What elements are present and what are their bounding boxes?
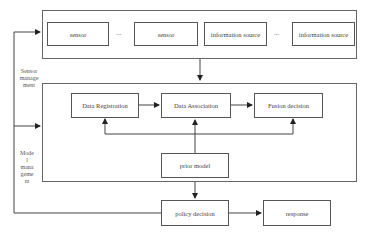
ellipsis: ... xyxy=(116,29,121,37)
label-line: ment xyxy=(14,82,44,89)
source-box-sensor-1: sensor xyxy=(47,22,109,46)
policy-decision-box: policy decision xyxy=(161,200,229,226)
source-label: sensor xyxy=(70,31,87,38)
source-box-info-2: information source xyxy=(292,22,355,46)
label-line: manage xyxy=(14,75,44,82)
label-line: l xyxy=(12,157,42,164)
prior-model-box: prior model xyxy=(161,153,229,178)
prior-model-label: prior model xyxy=(180,162,211,169)
label-line: mana xyxy=(12,164,42,171)
response-box: response xyxy=(263,200,331,226)
source-label: information source xyxy=(299,31,348,38)
policy-decision-label: policy decision xyxy=(175,210,215,217)
source-label: information source xyxy=(211,31,260,38)
model-management-label: Mode l mana geme nt xyxy=(12,150,42,185)
data-registration-label: Data Registration xyxy=(82,102,128,109)
source-label: sensor xyxy=(158,31,175,38)
source-box-sensor-2: sensor xyxy=(134,22,198,46)
label-line: Sensor xyxy=(14,68,44,75)
data-association-label: Data Association xyxy=(174,102,218,109)
fusion-decision-box: Fusion decision xyxy=(254,93,323,118)
fusion-decision-label: Fusion decision xyxy=(268,102,309,109)
label-line: Mode xyxy=(12,150,42,157)
source-box-info-1: information source xyxy=(204,22,267,46)
data-registration-box: Data Registration xyxy=(71,93,139,118)
response-label: response xyxy=(286,210,309,217)
ellipsis: ... xyxy=(274,29,279,37)
label-line: geme xyxy=(12,171,42,178)
sensor-management-label: Sensor manage ment xyxy=(14,68,44,89)
data-association-box: Data Association xyxy=(161,93,231,118)
label-line: nt xyxy=(12,178,42,185)
